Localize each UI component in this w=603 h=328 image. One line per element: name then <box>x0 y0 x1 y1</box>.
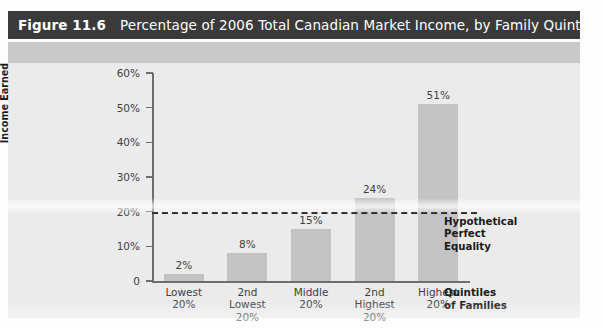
bar-value-label: 24% <box>363 183 386 195</box>
y-axis-tick-label: 0 <box>96 275 140 287</box>
y-axis-tick <box>146 246 153 248</box>
bar <box>227 253 267 281</box>
hypothetical-equality-line <box>152 212 477 214</box>
bar <box>291 229 331 281</box>
bar-value-label: 8% <box>239 238 256 250</box>
y-axis-tick <box>146 280 153 282</box>
y-axis-tick-label: 50% <box>96 102 140 114</box>
bar-value-label: 15% <box>299 214 322 226</box>
bar-value-label: 51% <box>427 89 450 101</box>
figure-root: Figure 11.6 Percentage of 2006 Total Can… <box>0 0 603 328</box>
bar-value-label: 2% <box>175 259 192 271</box>
y-axis-title: Percentage of Total Market Income Earned <box>0 18 11 188</box>
bar <box>418 104 458 281</box>
x-axis-line <box>152 281 470 283</box>
x-axis-title: Quintiles of Families <box>444 286 507 311</box>
hypothetical-equality-label: Hypothetical Perfect Equality <box>444 216 517 253</box>
bar <box>164 274 204 281</box>
y-axis-tick <box>146 142 153 144</box>
y-axis-tick-label: 30% <box>96 171 140 183</box>
x-axis-category-label: 2nd Lowest 20% <box>216 286 278 323</box>
bar-chart-plot: Percentage of Total Market Income Earned… <box>0 0 603 328</box>
x-axis-category-label: Middle 20% <box>280 286 342 311</box>
y-axis-tick-label: 20% <box>96 206 140 218</box>
y-axis-tick-label: 10% <box>96 240 140 252</box>
y-axis-tick <box>146 176 153 178</box>
y-axis-tick <box>146 72 153 74</box>
bar <box>355 198 395 281</box>
x-axis-category-label: 2nd Highest 20% <box>344 286 406 323</box>
y-axis-tick-label: 40% <box>96 136 140 148</box>
y-axis-tick <box>146 107 153 109</box>
x-axis-category-label: Lowest 20% <box>153 286 215 311</box>
y-axis-tick-label: 60% <box>96 67 140 79</box>
